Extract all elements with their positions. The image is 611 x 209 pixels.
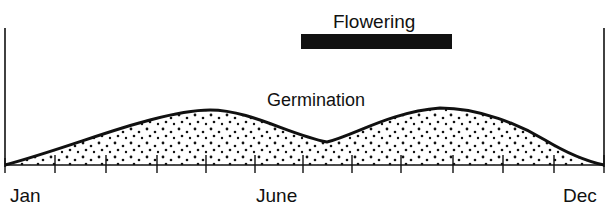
month-label-june: June (256, 186, 297, 205)
flowering-label: Flowering (333, 12, 415, 31)
flowering-bar (301, 34, 452, 49)
germination-label: Germination (267, 91, 365, 109)
month-label-dec: Dec (563, 186, 597, 205)
month-label-jan: Jan (10, 186, 41, 205)
